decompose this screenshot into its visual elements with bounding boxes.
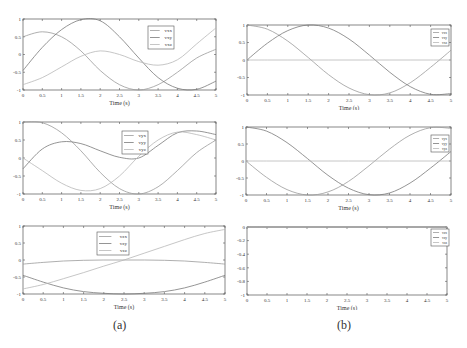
x-tick-label: 4.5 — [202, 297, 209, 302]
y-tick-label: -0.5 — [13, 275, 21, 280]
x-tick-label: 3 — [366, 298, 369, 303]
chart-a2-svg: 00.511.522.533.544.5510.50-0.5-1Time (s)… — [0, 110, 235, 215]
legend: vzxvzyvzz — [431, 229, 449, 246]
legend: vxxvxyvxz — [148, 26, 174, 49]
x-tick-label: 2 — [103, 297, 106, 302]
y-tick-label: -0.5 — [13, 174, 21, 179]
x-tick-label: 0 — [22, 297, 25, 302]
legend: vyxvyyvyz — [431, 135, 449, 152]
x-tick-label: 1 — [286, 198, 289, 203]
x-tick-label: 0 — [246, 98, 249, 103]
y-tick-label: 1 — [19, 17, 22, 22]
x-tick-label: 2 — [99, 93, 102, 98]
x-tick-label: 1.5 — [78, 93, 85, 98]
y-tick-label: -1 — [17, 88, 22, 93]
legend-entry: vzz — [442, 241, 447, 245]
x-tick-label: 1.5 — [304, 298, 311, 303]
x-axis-label: Time (s) — [338, 205, 358, 212]
x-tick-label: 1.5 — [304, 198, 311, 203]
x-tick-label: 2.5 — [121, 297, 128, 302]
x-tick-label: 3.5 — [384, 298, 391, 303]
x-axis-label: Time (s) — [337, 305, 357, 310]
y-tick-label: 1 — [243, 23, 246, 28]
y-tick-label: 0.5 — [15, 138, 22, 143]
x-tick-label: 0.5 — [264, 98, 271, 103]
y-tick-label: -0.5 — [236, 176, 244, 181]
x-tick-label: 5 — [446, 298, 449, 303]
x-tick-label: 2.5 — [346, 98, 353, 103]
x-tick-label: 1.5 — [305, 98, 312, 103]
x-tick-label: 2 — [326, 298, 329, 303]
x-tick-label: 0 — [22, 93, 25, 98]
legend-entry: vyz — [139, 147, 147, 152]
chart-b2: 00.511.522.533.544.5510.50-0.5-1Time (s)… — [235, 110, 467, 215]
x-tick-label: 2.5 — [345, 198, 352, 203]
legend: vzxvzyvzz — [97, 232, 129, 255]
caption-a: (a) — [113, 318, 126, 333]
chart-a2: 00.511.522.533.544.5510.50-0.5-1Time (s)… — [0, 110, 235, 215]
y-tick-label: 0 — [242, 159, 245, 164]
chart-a3: 00.511.522.533.544.5510.50-0.5-1Time (s)… — [0, 215, 235, 310]
legend-entry: vxy — [165, 35, 173, 40]
x-tick-label: 0.5 — [264, 298, 271, 303]
legend-entry: vxy — [442, 36, 448, 40]
y-tick-label: 0.5 — [238, 142, 245, 147]
series-line-vzy — [23, 275, 225, 294]
y-tick-label: -1 — [17, 192, 22, 197]
x-tick-label: 4 — [176, 197, 179, 202]
x-tick-label: 0.5 — [39, 93, 46, 98]
legend-entry: vzy — [442, 236, 447, 240]
legend-entry: vzx — [120, 234, 128, 239]
x-axis-label: Time (s) — [109, 100, 129, 107]
x-tick-label: 3 — [368, 98, 371, 103]
legend-entry: vzx — [442, 231, 447, 235]
x-tick-label: 5 — [450, 98, 453, 103]
x-tick-label: 3 — [138, 197, 141, 202]
x-tick-label: 3.5 — [155, 197, 162, 202]
x-tick-label: 3 — [138, 93, 141, 98]
y-tick-label: 0 — [19, 258, 22, 263]
x-tick-label: 0 — [245, 198, 248, 203]
y-tick-label: -1 — [17, 292, 22, 297]
y-tick-label: -1 — [241, 293, 246, 298]
series-line-vxx — [23, 32, 216, 90]
y-tick-label: -1 — [241, 93, 246, 98]
chart-b1: 00.511.522.533.544.5510.50-0.5-1Time (s)… — [235, 0, 467, 110]
x-tick-label: 4.5 — [427, 198, 434, 203]
chart-b2-svg: 00.511.522.533.544.5510.50-0.5-1Time (s)… — [235, 110, 467, 215]
x-tick-label: 3.5 — [155, 93, 162, 98]
series-line-vzx — [23, 260, 225, 264]
chart-a1: 00.511.522.533.544.5510.50-0.5-1Time (s)… — [0, 0, 235, 110]
x-axis-label: Time (s) — [109, 204, 129, 211]
x-tick-label: 0.5 — [40, 297, 47, 302]
legend-entry: vxz — [165, 42, 173, 47]
x-tick-label: 5 — [224, 297, 227, 302]
x-tick-label: 4 — [406, 298, 409, 303]
y-tick-label: -0.6 — [237, 266, 245, 271]
x-tick-label: 3.5 — [386, 198, 393, 203]
chart-b1-svg: 00.511.522.533.544.5510.50-0.5-1Time (s)… — [235, 0, 467, 110]
x-tick-label: 5 — [215, 197, 218, 202]
x-tick-label: 1 — [60, 197, 63, 202]
y-tick-label: -0.8 — [237, 279, 245, 284]
y-tick-label: -1 — [240, 193, 245, 198]
y-tick-label: 1 — [19, 120, 22, 125]
legend-entry: vxx — [442, 31, 448, 35]
x-tick-label: 0 — [246, 298, 249, 303]
series-line-vyy — [23, 131, 216, 169]
y-tick-label: 0 — [243, 58, 246, 63]
legend-entry: vxx — [165, 28, 173, 33]
x-tick-label: 1.5 — [78, 197, 85, 202]
x-tick-label: 2.5 — [116, 197, 123, 202]
legend-entry: vyy — [139, 140, 147, 145]
x-tick-label: 5 — [215, 93, 218, 98]
legend-entry: vzz — [120, 248, 128, 253]
x-tick-label: 0.5 — [263, 198, 270, 203]
x-tick-label: 4 — [176, 93, 179, 98]
chart-b3: 00.511.522.533.544.550-0.2-0.4-0.6-0.8-1… — [235, 215, 467, 310]
x-tick-label: 4 — [183, 297, 186, 302]
y-tick-label: 0 — [19, 52, 22, 57]
x-tick-label: 3.5 — [387, 98, 394, 103]
legend-entry: vzy — [120, 241, 128, 246]
caption-b: (b) — [337, 318, 351, 333]
